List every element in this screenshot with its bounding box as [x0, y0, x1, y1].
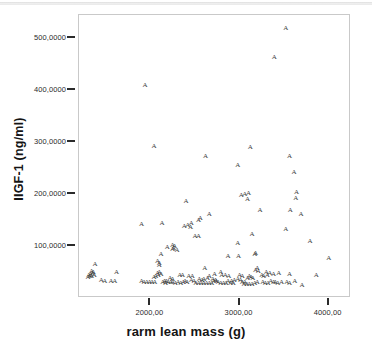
data-point: A [87, 272, 92, 279]
data-point: A [255, 265, 260, 272]
data-point: A [114, 268, 119, 275]
data-point: A [293, 195, 298, 202]
x-axis-tick-label: 3000,00 [225, 308, 253, 317]
data-point: A [266, 280, 271, 287]
data-point: A [197, 276, 202, 283]
data-point: A [255, 278, 260, 285]
data-point: A [299, 282, 304, 289]
data-point: A [193, 279, 198, 286]
data-point: A [183, 197, 188, 204]
data-point: A [89, 268, 94, 275]
data-point: A [156, 272, 161, 279]
data-point: A [279, 279, 284, 286]
data-point: A [198, 214, 203, 221]
data-point: A [261, 273, 266, 280]
data-point: A [163, 279, 168, 286]
data-point: A [241, 280, 246, 287]
data-point: A [207, 211, 212, 218]
data-point: A [219, 272, 224, 279]
data-point: A [180, 272, 185, 279]
data-point: A [144, 278, 149, 285]
data-point: A [210, 276, 215, 283]
data-point: A [177, 271, 182, 278]
data-point: A [196, 232, 201, 239]
data-point: A [151, 142, 156, 149]
data-point: A [85, 274, 90, 281]
y-axis-tick-mark [67, 192, 75, 194]
y-axis-tick-mark [67, 140, 75, 142]
data-point: A [218, 279, 223, 286]
data-point: A [225, 252, 230, 259]
data-point: A [185, 222, 190, 229]
data-point: A [259, 272, 264, 279]
data-point: A [184, 278, 189, 285]
data-point: A [196, 217, 201, 224]
data-point: A [256, 268, 261, 275]
data-point: A [291, 168, 296, 175]
data-point: A [170, 246, 175, 253]
data-point: A [238, 276, 243, 283]
data-point: A [155, 270, 160, 277]
data-point: A [272, 53, 277, 60]
data-point: A [92, 272, 97, 279]
data-point: A [157, 269, 162, 276]
x-axis: 2000,003000,004000,00 [0, 297, 372, 327]
data-point: A [181, 279, 186, 286]
data-point: A [253, 250, 258, 257]
data-point: A [201, 279, 206, 286]
data-point: A [90, 270, 95, 277]
data-point: A [288, 207, 293, 214]
data-point: A [188, 223, 193, 230]
data-point: A [237, 271, 242, 278]
data-point: A [186, 272, 191, 279]
data-point: A [170, 279, 175, 286]
data-point: A [89, 273, 94, 280]
x-axis-tick-mark [148, 298, 150, 305]
data-point: A [112, 278, 117, 285]
y-axis-tick-mark [67, 36, 75, 38]
data-point: A [171, 245, 176, 252]
data-point: A [271, 271, 276, 278]
data-point: A [207, 279, 212, 286]
data-point: A [276, 270, 281, 277]
data-point: A [183, 278, 188, 285]
data-point: A [196, 279, 201, 286]
data-point: A [203, 152, 208, 159]
data-point: A [218, 269, 223, 276]
data-point: A [160, 279, 165, 286]
data-point: A [88, 270, 93, 277]
data-point: A [170, 241, 175, 248]
data-point: A [173, 279, 178, 286]
data-point: A [275, 279, 280, 286]
data-point: A [271, 278, 276, 285]
data-point: A [109, 277, 114, 284]
data-point: A [162, 277, 167, 284]
data-point: A [287, 279, 292, 286]
data-point: A [175, 279, 180, 286]
data-point: A [199, 280, 204, 287]
data-point: A [223, 272, 228, 279]
data-point: A [292, 278, 297, 285]
data-point: A [265, 272, 270, 279]
data-point: A [147, 279, 152, 286]
x-axis-tick-mark [238, 298, 240, 305]
data-point: A [283, 24, 288, 31]
data-point: A [159, 219, 164, 226]
data-point: A [239, 191, 244, 198]
y-axis-tick-label: 200,0000 [34, 189, 66, 198]
data-point: A [192, 277, 197, 284]
data-point: A [209, 280, 214, 287]
data-point: A [228, 280, 233, 287]
data-point: A [268, 278, 273, 285]
data-point: A [287, 270, 292, 277]
data-point: A [221, 279, 226, 286]
data-point: A [93, 260, 98, 267]
data-point: A [299, 210, 304, 217]
data-point: A [244, 280, 249, 287]
data-point: A [213, 276, 218, 283]
data-point: A [245, 196, 250, 203]
y-axis-tick-mark [67, 244, 75, 246]
data-point: A [189, 220, 194, 227]
data-point: A [204, 280, 209, 287]
data-point: A [258, 206, 263, 213]
